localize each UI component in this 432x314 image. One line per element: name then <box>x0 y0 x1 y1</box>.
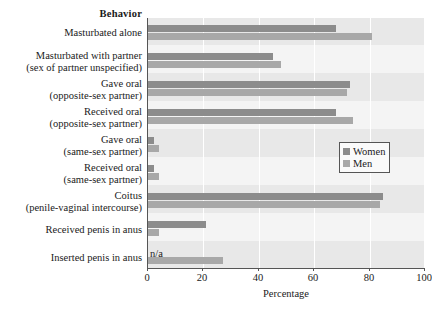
legend-label: Men <box>353 158 372 169</box>
plot-area: n/a Women Men <box>147 18 425 268</box>
x-axis-tick-label: 40 <box>253 272 264 283</box>
category-label-line1: Gave oral <box>101 134 142 145</box>
category-label-line2: (sex of partner unspecified) <box>26 62 142 74</box>
legend-label: Women <box>353 146 385 157</box>
category-label-line2: (opposite-sex partner) <box>50 90 142 102</box>
x-axis-tick-label: 100 <box>416 272 432 283</box>
legend-swatch-icon <box>343 148 350 155</box>
bar-women <box>148 109 336 116</box>
category-label: Masturbated alone <box>64 27 142 39</box>
bar-men <box>148 145 159 152</box>
category-label-line2: (penile-vaginal intercourse) <box>26 202 142 214</box>
category-label-line1: Masturbated alone <box>64 27 142 38</box>
category-label: Masturbated with partner (sex of partner… <box>26 50 142 73</box>
x-axis-tick-label: 20 <box>197 272 208 283</box>
category-label-line1: Coitus <box>115 190 142 201</box>
category-label-column: Behavior Masturbated alone Masturbated w… <box>0 0 146 314</box>
category-label: Coitus (penile-vaginal intercourse) <box>26 190 142 213</box>
bar-men <box>148 33 372 40</box>
legend-item-men: Men <box>343 157 385 169</box>
bar-women <box>148 25 336 32</box>
bar-men <box>148 257 223 264</box>
x-axis-tick <box>424 268 425 271</box>
category-label-line1: Masturbated with partner <box>36 50 142 61</box>
legend: Women Men <box>339 142 390 173</box>
category-label: Gave oral (opposite-sex partner) <box>50 78 142 101</box>
bar-women <box>148 137 154 144</box>
x-axis-tick <box>202 268 203 271</box>
category-label: Received penis in anus <box>45 224 142 236</box>
bar-women <box>148 53 273 60</box>
bar-chart: Behavior Masturbated alone Masturbated w… <box>0 0 432 314</box>
x-axis-tick <box>313 268 314 271</box>
category-label-line1: Inserted penis in anus <box>51 252 142 263</box>
bar-women <box>148 165 154 172</box>
x-axis-tick <box>369 268 370 271</box>
x-axis-tick <box>258 268 259 271</box>
bar-men <box>148 173 159 180</box>
x-axis-tick <box>147 268 148 271</box>
gridline <box>314 18 315 268</box>
category-label: Inserted penis in anus <box>51 252 142 264</box>
x-axis-title: Percentage <box>147 288 425 299</box>
bar-men <box>148 229 159 236</box>
x-axis-tick-label: 80 <box>364 272 375 283</box>
gridline <box>424 18 425 268</box>
category-label-line1: Received oral <box>84 162 142 173</box>
category-label-line1: Gave oral <box>101 78 142 89</box>
bar-men <box>148 89 347 96</box>
x-axis-tick-label: 0 <box>144 272 149 283</box>
bar-women <box>148 221 206 228</box>
legend-item-women: Women <box>343 145 385 157</box>
bar-men <box>148 117 353 124</box>
bar-men <box>148 201 380 208</box>
category-label: Gave oral (same-sex partner) <box>64 134 142 157</box>
category-label: Received oral (same-sex partner) <box>64 162 142 185</box>
category-label-line1: Received oral <box>84 106 142 117</box>
category-label-line2: (same-sex partner) <box>64 174 142 186</box>
category-label: Received oral (opposite-sex partner) <box>50 106 142 129</box>
x-axis-line <box>147 268 425 269</box>
bar-women <box>148 81 350 88</box>
bar-men <box>148 61 281 68</box>
x-axis-tick-label: 60 <box>308 272 319 283</box>
category-label-line1: Received penis in anus <box>45 224 142 235</box>
category-label-line2: (opposite-sex partner) <box>50 118 142 130</box>
legend-swatch-icon <box>343 160 350 167</box>
bar-women <box>148 193 383 200</box>
category-label-line2: (same-sex partner) <box>64 146 142 158</box>
behavior-column-header: Behavior <box>100 8 142 19</box>
